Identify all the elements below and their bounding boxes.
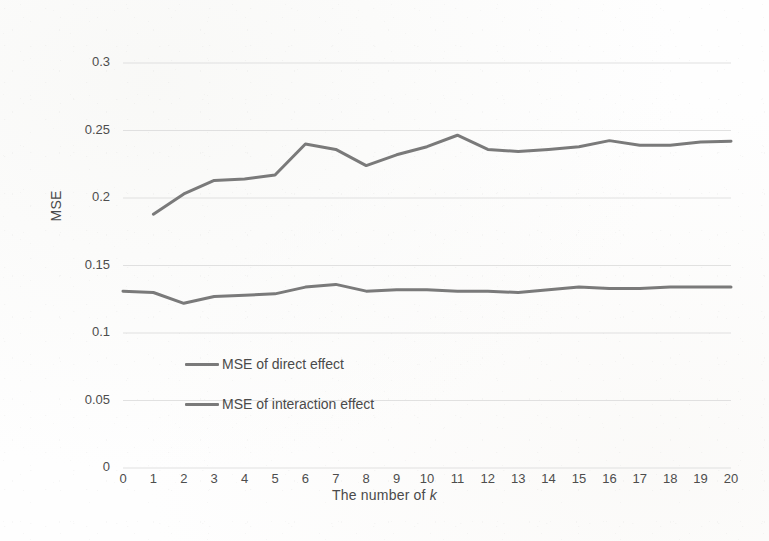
x-tick-label: 3: [200, 471, 228, 486]
x-tick-label: 19: [687, 471, 715, 486]
y-tick-label: 0.15: [62, 257, 110, 272]
x-tick-label: 7: [322, 471, 350, 486]
x-tick-label: 8: [352, 471, 380, 486]
x-tick-label: 9: [383, 471, 411, 486]
x-tick-label: 10: [413, 471, 441, 486]
y-tick-label: 0.3: [62, 54, 110, 69]
x-tick-label: 17: [626, 471, 654, 486]
y-tick-label: 0.25: [62, 122, 110, 137]
legend-entry[interactable]: MSE of direct effect: [185, 356, 344, 372]
x-tick-label: 15: [565, 471, 593, 486]
series-line-interaction-effect: [153, 135, 731, 214]
x-tick-label: 6: [291, 471, 319, 486]
legend-label: MSE of interaction effect: [222, 396, 374, 412]
x-tick-label: 16: [595, 471, 623, 486]
y-tick-label: 0.1: [62, 324, 110, 339]
x-tick-label: 2: [170, 471, 198, 486]
x-tick-label: 4: [231, 471, 259, 486]
x-tick-label: 14: [535, 471, 563, 486]
x-tick-label: 12: [474, 471, 502, 486]
x-tick-label: 1: [139, 471, 167, 486]
y-tick-label: 0: [62, 459, 110, 474]
y-tick-label: 0.05: [62, 392, 110, 407]
x-tick-label: 20: [717, 471, 745, 486]
legend-label: MSE of direct effect: [222, 356, 344, 372]
x-tick-label: 5: [261, 471, 289, 486]
series-line-direct-effect: [123, 284, 731, 303]
legend-entry[interactable]: MSE of interaction effect: [185, 396, 374, 412]
legend-swatch-icon: [185, 403, 219, 406]
x-tick-label: 13: [504, 471, 532, 486]
y-tick-label: 0.2: [62, 189, 110, 204]
line-chart: [0, 0, 769, 541]
x-tick-label: 11: [443, 471, 471, 486]
x-tick-label: 0: [109, 471, 137, 486]
x-tick-label: 18: [656, 471, 684, 486]
legend-swatch-icon: [185, 363, 219, 366]
series-group: [123, 135, 731, 303]
